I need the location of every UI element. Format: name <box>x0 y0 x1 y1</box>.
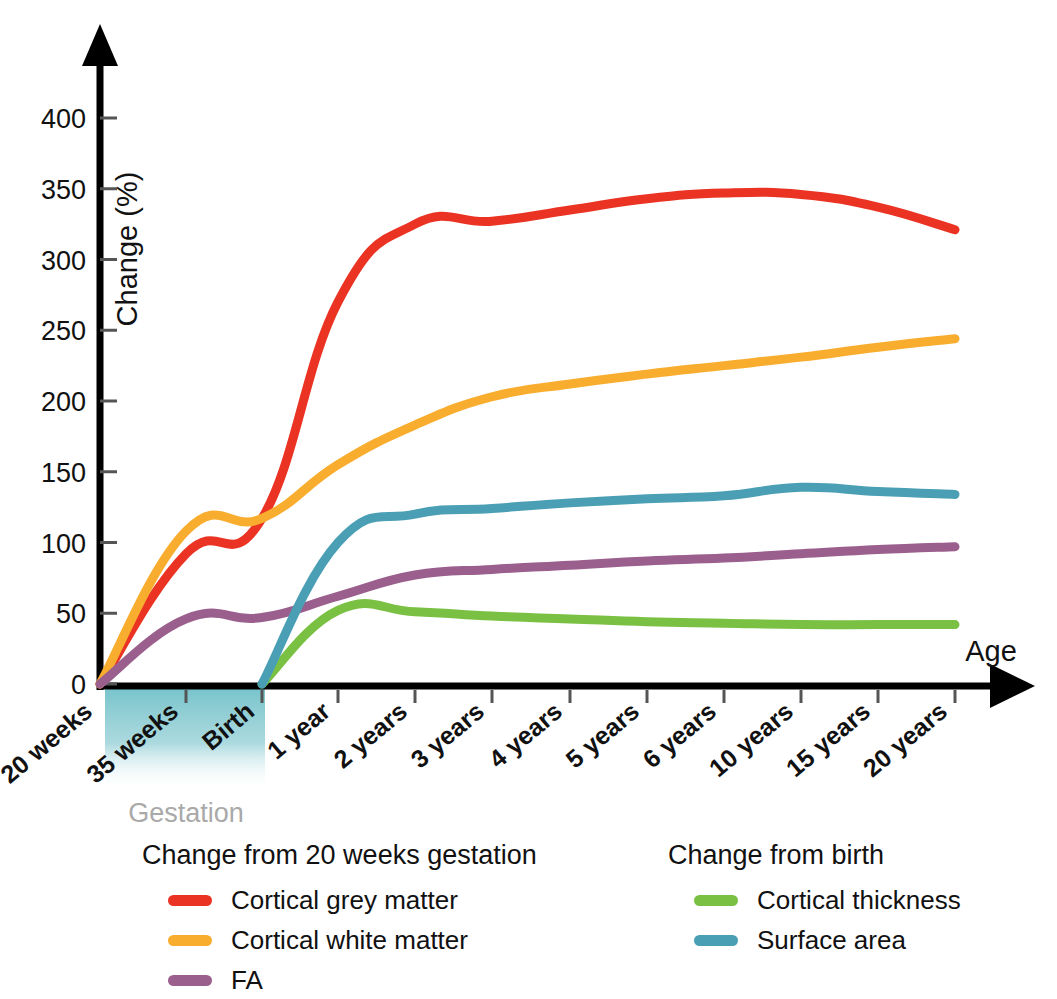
y-tick-label: 400 <box>41 104 86 134</box>
y-tick-labels: 050100150200250300350400 <box>41 104 86 700</box>
y-tick-label: 200 <box>41 387 86 417</box>
legend-swatch-icon <box>168 935 212 946</box>
legend-item[interactable]: Cortical thickness <box>694 885 1048 916</box>
legend-item[interactable]: Surface area <box>694 925 1048 956</box>
y-tick-label: 150 <box>41 458 86 488</box>
x-axis-title: Age <box>965 635 1017 667</box>
x-tick-label: 20 weeks <box>0 696 97 788</box>
series-line-cortical-thickness <box>262 603 955 684</box>
y-tick-label: 250 <box>41 316 86 346</box>
legend-item[interactable]: Cortical white matter <box>168 925 562 956</box>
series-lines <box>100 192 955 684</box>
x-tick-label: 15 years <box>781 696 876 782</box>
legend-item-label: FA <box>231 965 263 996</box>
x-tick-label: 10 years <box>704 696 799 782</box>
y-tick-label: 0 <box>71 670 86 700</box>
legend-item-label: Cortical grey matter <box>231 885 458 916</box>
legend-group-birth: Change from birthCortical thicknessSurfa… <box>668 840 1048 965</box>
legend-item[interactable]: FA <box>168 965 562 996</box>
y-axis-title: Change (%) <box>111 172 143 327</box>
x-tick-label: 20 years <box>858 696 953 782</box>
legend: Change from 20 weeks gestationCortical g… <box>0 840 1057 999</box>
series-line-cortical-white-matter <box>100 339 955 684</box>
y-tick-label: 350 <box>41 175 86 205</box>
legend-group-title: Change from birth <box>668 840 1048 871</box>
legend-group-title: Change from 20 weeks gestation <box>142 840 562 871</box>
x-tick-label: 1 year <box>262 696 336 764</box>
legend-swatch-icon <box>168 895 212 906</box>
x-tick-label: 2 years <box>328 696 412 773</box>
y-tick-label: 100 <box>41 529 86 559</box>
legend-swatch-icon <box>694 895 738 906</box>
y-axis <box>82 24 118 690</box>
legend-swatch-icon <box>168 975 212 986</box>
brain-development-chart: 050100150200250300350400 20 weeks35 week… <box>0 0 1057 999</box>
legend-item-label: Surface area <box>757 925 906 956</box>
x-tick-label: 5 years <box>560 696 644 773</box>
series-line-cortical-grey-matter <box>100 192 955 684</box>
legend-item-label: Cortical white matter <box>231 925 468 956</box>
y-tick-label: 300 <box>41 246 86 276</box>
legend-item-label: Cortical thickness <box>757 885 961 916</box>
gestation-label: Gestation <box>128 798 244 828</box>
legend-item[interactable]: Cortical grey matter <box>168 885 562 916</box>
x-tick-marks <box>186 690 955 703</box>
y-tick-label: 50 <box>56 599 86 629</box>
legend-group-gestation: Change from 20 weeks gestationCortical g… <box>142 840 562 999</box>
legend-swatch-icon <box>694 935 738 946</box>
x-tick-label: 3 years <box>405 696 489 773</box>
x-tick-label: 4 years <box>483 696 567 773</box>
